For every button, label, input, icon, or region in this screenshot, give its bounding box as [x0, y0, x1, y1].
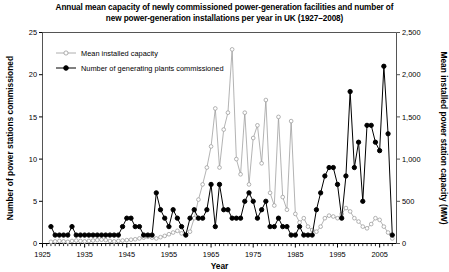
- data-point: [79, 239, 83, 243]
- filled-circle-icon: [64, 66, 69, 71]
- data-point: [297, 224, 301, 228]
- data-point: [318, 191, 322, 195]
- y-tick-label: 25: [29, 28, 37, 37]
- x-axis-title: Year: [211, 261, 229, 271]
- data-point: [319, 225, 323, 229]
- data-point: [83, 240, 87, 244]
- data-point: [235, 157, 239, 161]
- data-point: [100, 238, 104, 242]
- data-point: [268, 224, 272, 228]
- data-point: [116, 233, 120, 237]
- data-point: [272, 224, 276, 228]
- data-point: [61, 233, 65, 237]
- data-point: [201, 183, 205, 187]
- data-point: [171, 208, 175, 212]
- y-tick-label: 0: [33, 239, 37, 248]
- data-point: [336, 216, 340, 220]
- data-point: [226, 111, 230, 115]
- y-tick-label: 10: [29, 155, 37, 164]
- data-point: [171, 231, 175, 235]
- data-point: [306, 233, 310, 237]
- x-tick-label: 1945: [119, 250, 135, 259]
- data-point: [377, 149, 381, 153]
- data-point: [294, 212, 298, 216]
- data-point: [159, 235, 163, 239]
- data-point: [205, 208, 209, 212]
- data-point: [369, 123, 373, 127]
- data-point: [348, 210, 352, 214]
- data-point: [386, 231, 390, 235]
- data-point: [365, 226, 369, 230]
- data-point: [167, 224, 171, 228]
- data-point: [386, 132, 390, 136]
- data-point: [197, 198, 201, 202]
- data-point: [129, 216, 133, 220]
- data-point: [344, 174, 348, 178]
- data-point: [260, 161, 264, 165]
- data-point: [188, 216, 192, 220]
- data-point: [121, 239, 125, 243]
- data-point: [268, 191, 272, 195]
- data-point: [150, 233, 154, 237]
- data-point: [289, 119, 293, 123]
- data-point: [104, 233, 108, 237]
- data-point: [129, 238, 133, 242]
- data-point: [234, 216, 238, 220]
- data-point: [141, 233, 145, 237]
- y-tick-label: 5: [33, 197, 37, 206]
- data-point: [53, 233, 57, 237]
- legend-label: Mean installed capacity: [81, 49, 158, 58]
- data-point: [108, 239, 112, 243]
- data-point: [327, 165, 331, 169]
- y-axis-right-ticks: 05001,0001,5002,0002,500: [397, 28, 421, 248]
- data-point: [209, 182, 213, 186]
- data-point: [87, 239, 91, 243]
- data-point: [264, 199, 268, 203]
- data-point: [154, 237, 158, 241]
- y2-tick-label: 1,500: [402, 113, 421, 122]
- x-tick-label: 1965: [203, 250, 219, 259]
- chart-plot-area: 192519351945195519651975198519952005 051…: [0, 0, 449, 272]
- y-axis-right-title: Mean installed power station capacity (M…: [439, 51, 449, 224]
- data-point: [314, 208, 318, 212]
- data-point: [196, 216, 200, 220]
- data-point: [247, 191, 251, 195]
- data-point: [125, 216, 129, 220]
- data-point: [57, 233, 61, 237]
- y2-tick-label: 2,000: [402, 70, 421, 79]
- data-point: [277, 115, 281, 119]
- data-point: [66, 240, 70, 244]
- data-point: [306, 225, 310, 229]
- data-point: [369, 222, 373, 226]
- data-point: [99, 233, 103, 237]
- data-point: [382, 64, 386, 68]
- data-point: [390, 233, 394, 237]
- data-point: [335, 182, 339, 186]
- y2-tick-label: 0: [402, 239, 406, 248]
- data-point: [353, 216, 357, 220]
- x-tick-label: 1955: [161, 250, 177, 259]
- data-point: [361, 225, 365, 229]
- data-point: [302, 216, 306, 220]
- data-point: [239, 172, 243, 176]
- chart-legend: Mean installed capacityNumber of generat…: [56, 49, 224, 73]
- data-point: [340, 216, 344, 220]
- data-point: [251, 136, 255, 140]
- data-point: [276, 216, 280, 220]
- data-point: [91, 239, 95, 243]
- data-point: [133, 224, 137, 228]
- data-point: [281, 224, 285, 228]
- data-point: [298, 221, 302, 225]
- data-point: [247, 183, 251, 187]
- data-point: [218, 166, 222, 170]
- data-point: [251, 199, 255, 203]
- data-point: [87, 233, 91, 237]
- data-point: [209, 145, 213, 149]
- data-point: [255, 216, 259, 220]
- data-point: [243, 199, 247, 203]
- data-point: [125, 238, 129, 242]
- y2-tick-label: 2,500: [402, 28, 421, 37]
- x-tick-label: 1925: [34, 250, 50, 259]
- data-point: [120, 224, 124, 228]
- data-point: [259, 208, 263, 212]
